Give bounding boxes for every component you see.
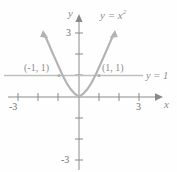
y-tick-label-negative-3: -3: [61, 154, 69, 165]
graph-figure: y x -3 3 3 -3 y = x2 y = 1 (-1, 1) (1, 1…: [0, 0, 177, 172]
y-axis: [75, 14, 83, 170]
curve-equation-exponent: 2: [123, 8, 127, 16]
y-axis-label: y: [68, 7, 73, 19]
curve-equation-label: y = x2: [100, 8, 126, 21]
x-axis: [8, 93, 163, 101]
coordinate-plane-svg: [0, 0, 177, 172]
x-tick-label-3: 3: [136, 101, 141, 112]
y-tick-label-3: 3: [66, 27, 71, 38]
line-equation-label: y = 1: [146, 70, 168, 81]
point-label-left: (-1, 1): [24, 62, 49, 73]
curve-equation-base: y = x: [100, 9, 123, 21]
x-tick-label-negative-3: -3: [9, 101, 17, 112]
point-label-right: (1, 1): [102, 62, 124, 73]
x-axis-label: x: [164, 98, 169, 110]
